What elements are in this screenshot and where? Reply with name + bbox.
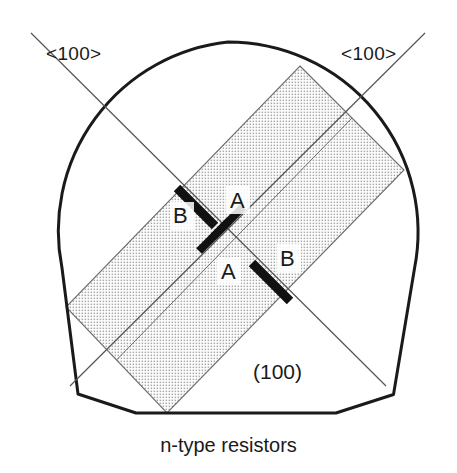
direction-label-right: <100> — [341, 44, 396, 63]
resistor-label-b-bottom: B — [280, 248, 295, 270]
figure-caption: n-type resistors — [0, 434, 457, 457]
wafer-diagram-svg — [0, 0, 457, 473]
resistor-label-a-bottom: A — [221, 261, 236, 283]
wafer-diagram-figure: <100> <100> A B A B (100) n-type resisto… — [0, 0, 457, 473]
direction-label-left: <100> — [46, 44, 101, 63]
resistor-label-b-top: B — [173, 205, 188, 227]
resistor-label-a-top: A — [230, 190, 245, 212]
crystal-plane-label: (100) — [253, 361, 302, 382]
